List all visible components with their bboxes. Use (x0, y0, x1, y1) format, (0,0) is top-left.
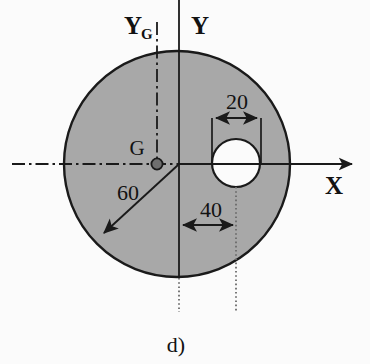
yg-axis-label-subscript: G (141, 26, 153, 42)
hole-diameter-dimension-label: 20 (226, 89, 248, 114)
figure-caption: d) (167, 332, 185, 357)
hole-offset-dimension-label: 40 (200, 197, 222, 222)
yg-axis-label: Y (124, 12, 142, 39)
technical-drawing-figure: Y Y G X G 20 40 60 d) (0, 0, 370, 364)
x-axis-label: X (325, 172, 343, 199)
hole-shape (212, 139, 260, 187)
y-axis-label: Y (191, 12, 209, 39)
figure-canvas: Y Y G X G 20 40 60 d) (0, 0, 370, 364)
centroid-label: G (129, 136, 144, 160)
disc-radius-dimension-label: 60 (117, 180, 139, 205)
centroid-marker (151, 158, 162, 169)
